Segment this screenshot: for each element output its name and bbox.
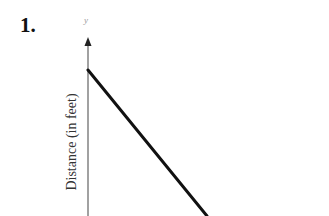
plot-area <box>0 0 329 216</box>
worksheet-graph-problem: 1. y Distance (in feet) <box>0 0 329 216</box>
y-axis-arrow-icon <box>85 37 92 46</box>
distance-line <box>88 70 207 216</box>
